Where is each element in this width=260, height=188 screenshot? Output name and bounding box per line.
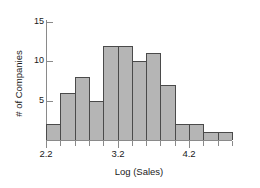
x-tick-mark [146, 141, 147, 146]
y-tick-label: 5 [4, 96, 44, 105]
histogram-bar [60, 93, 76, 140]
x-axis-spine [46, 140, 232, 141]
x-tick-label: 4.2 [174, 149, 204, 159]
x-tick-label: 2.2 [31, 149, 61, 159]
histogram-bar [75, 77, 90, 140]
plot-area: 51015 2.23.24.2 Log (Sales) # of Compani… [0, 0, 260, 188]
x-tick-mark [175, 141, 176, 146]
y-tick-label: 15 [4, 17, 44, 26]
x-tick-mark [60, 141, 61, 146]
x-tick-mark [75, 141, 76, 146]
histogram-bar [146, 53, 161, 140]
x-tick-mark-major [118, 141, 119, 148]
x-tick-label: 3.2 [103, 149, 133, 159]
x-tick-mark [132, 141, 133, 146]
y-axis-label: # of Companies [13, 29, 24, 139]
histogram-bar [160, 85, 176, 140]
x-tick-mark [89, 141, 90, 146]
y-tick-mark [47, 22, 53, 23]
histogram-bar [175, 124, 190, 140]
x-tick-mark-major [189, 141, 190, 148]
x-axis-label: Log (Sales) [46, 166, 232, 177]
y-tick-mark [47, 101, 53, 102]
histogram-bar [203, 132, 219, 140]
x-tick-mark [232, 141, 233, 146]
y-axis-spine [46, 20, 47, 141]
histogram-bar [118, 46, 133, 140]
x-tick-mark [103, 141, 104, 146]
x-tick-mark-major [46, 141, 47, 148]
y-tick-label: 10 [4, 56, 44, 65]
histogram-bar [103, 46, 119, 140]
histogram-bar [189, 124, 204, 140]
histogram-bar [132, 61, 147, 140]
y-tick-mark [47, 61, 53, 62]
x-tick-mark [160, 141, 161, 146]
x-tick-mark [203, 141, 204, 146]
histogram-bar [218, 132, 233, 140]
x-tick-mark [218, 141, 219, 146]
histogram-bar [89, 101, 104, 140]
histogram-figure: 51015 2.23.24.2 Log (Sales) # of Compani… [0, 0, 260, 188]
histogram-bar [46, 124, 61, 140]
